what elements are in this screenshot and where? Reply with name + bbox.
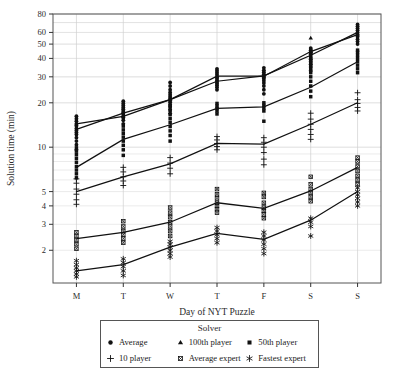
legend-item-100th-player[interactable]: 100th player	[175, 337, 245, 348]
asterisk-icon	[244, 353, 255, 364]
data-point-square	[168, 113, 171, 116]
data-point-square	[309, 57, 312, 60]
y-tick-label: 60	[38, 27, 47, 37]
data-point-square	[309, 89, 312, 92]
y-tick-label: 20	[38, 98, 47, 108]
y-axis-label: Solution time (min)	[6, 111, 17, 186]
data-point-circle	[262, 88, 266, 92]
square-icon	[244, 337, 255, 348]
data-point-square	[309, 80, 312, 83]
data-point-circle	[121, 99, 125, 103]
data-point-square	[75, 149, 78, 152]
legend-item-average-expert[interactable]: Average expert	[175, 353, 245, 364]
y-tick-label: 80	[38, 9, 47, 19]
data-point-square	[75, 161, 78, 164]
legend-item-fastest-expert[interactable]: Fastest expert	[244, 353, 314, 364]
data-point-square	[168, 109, 171, 112]
data-point-square	[262, 119, 265, 122]
legend-row: 10 playerAverage expertFastest expert	[105, 350, 314, 366]
data-point-square	[356, 71, 359, 74]
data-point-square	[309, 71, 312, 74]
data-point-square	[75, 157, 78, 160]
legend-title: Solver	[101, 321, 318, 334]
data-point-square	[168, 134, 171, 137]
chart-legend: Solver Average100th player50th player10 …	[100, 320, 319, 368]
x-axis-label: Day of NYT Puzzle	[179, 307, 255, 317]
y-tick-label: 30	[38, 72, 47, 82]
data-point-square	[356, 67, 359, 70]
data-point-square	[75, 146, 78, 149]
data-point-square	[248, 340, 252, 344]
data-point-square	[215, 112, 218, 115]
data-point-square	[309, 75, 312, 78]
legend-item-label: Average expert	[189, 353, 241, 363]
crossed-square-icon	[175, 353, 186, 364]
data-point-square	[168, 139, 171, 142]
y-tick-label: 3	[42, 219, 46, 229]
data-point-circle	[262, 66, 266, 70]
data-point-circle	[75, 143, 79, 147]
legend-item-label: 10 player	[119, 353, 151, 363]
x-tick-label: S	[355, 291, 360, 301]
data-point-square	[122, 124, 125, 127]
data-point-square	[122, 132, 125, 135]
data-point-square	[356, 48, 359, 51]
data-point-square	[122, 144, 125, 147]
data-point-square	[122, 154, 125, 157]
x-tick-label: T	[214, 291, 220, 301]
data-point-plus	[107, 355, 114, 362]
data-point-square	[75, 168, 78, 171]
data-point-square	[309, 95, 312, 98]
triangle-icon	[175, 337, 186, 348]
data-point-square	[215, 102, 218, 105]
data-point-crossed-square	[178, 356, 182, 360]
y-tick-label: 40	[38, 53, 47, 63]
legend-item-10-player[interactable]: 10 player	[105, 353, 175, 364]
legend-row: Average100th player50th player	[105, 334, 314, 350]
legend-item-label: 100th player	[189, 337, 232, 347]
x-tick-label: T	[121, 291, 127, 301]
data-point-square	[309, 60, 312, 63]
data-point-square	[122, 128, 125, 131]
data-point-square	[75, 172, 78, 175]
legend-item-label: Average	[119, 337, 147, 347]
x-tick-label: S	[308, 291, 313, 301]
y-tick-label: 5	[42, 187, 46, 197]
data-point-square	[262, 101, 265, 104]
data-point-square	[122, 148, 125, 151]
circle-icon	[105, 337, 116, 348]
data-point-circle	[75, 139, 79, 143]
data-point-square	[356, 57, 359, 60]
data-point-circle	[356, 22, 360, 26]
x-tick-label: F	[261, 291, 266, 301]
data-point-circle	[75, 114, 79, 118]
legend-item-50th-player[interactable]: 50th player	[244, 337, 314, 348]
data-point-asterisk	[247, 355, 253, 362]
data-point-circle	[215, 67, 219, 71]
data-point-square	[309, 67, 312, 70]
chart-figure: 234510203040506080MTWTFSSDay of NYT Puzz…	[0, 0, 404, 376]
legend-items: Average100th player50th player10 playerA…	[101, 334, 318, 366]
x-tick-label: M	[73, 291, 81, 301]
y-tick-label: 10	[38, 142, 47, 152]
legend-item-label: Fastest expert	[258, 353, 306, 363]
data-point-square	[168, 129, 171, 132]
plus-icon	[105, 353, 116, 364]
data-point-square	[356, 54, 359, 57]
y-tick-label: 50	[38, 39, 47, 49]
data-point-square	[75, 153, 78, 156]
data-point-circle	[108, 340, 112, 344]
data-point-square	[356, 63, 359, 66]
x-tick-label: W	[166, 291, 174, 301]
data-point-circle	[168, 80, 172, 84]
data-point-triangle	[178, 339, 183, 343]
legend-item-label: 50th player	[258, 337, 297, 347]
y-tick-label: 2	[42, 245, 46, 255]
data-point-circle	[168, 84, 172, 88]
data-point-square	[168, 104, 171, 107]
data-point-circle	[262, 92, 266, 96]
data-point-circle	[168, 88, 172, 92]
data-point-square	[309, 63, 312, 66]
data-point-square	[168, 117, 171, 120]
legend-item-average[interactable]: Average	[105, 337, 175, 348]
